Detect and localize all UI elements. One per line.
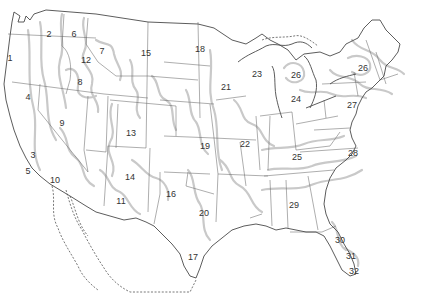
region-label-26-michigan: 26 <box>291 71 301 80</box>
region-label-31: 31 <box>346 252 356 261</box>
region-label-10: 10 <box>50 176 60 185</box>
region-label-32: 32 <box>349 267 359 276</box>
region-label-27: 27 <box>347 101 357 110</box>
region-label-13: 13 <box>126 129 136 138</box>
region-label-17: 17 <box>188 253 198 262</box>
region-label-14: 14 <box>125 173 135 182</box>
region-label-9: 9 <box>59 119 64 128</box>
region-label-6: 6 <box>71 30 76 39</box>
region-label-25: 25 <box>292 153 302 162</box>
region-label-3: 3 <box>30 151 35 160</box>
us-region-map <box>0 0 426 299</box>
region-label-4: 4 <box>25 93 30 102</box>
region-label-16: 16 <box>166 190 176 199</box>
region-label-2: 2 <box>46 30 51 39</box>
region-label-8: 8 <box>77 78 82 87</box>
region-label-7: 7 <box>99 47 104 56</box>
region-label-22: 22 <box>240 140 250 149</box>
region-label-30: 30 <box>335 236 345 245</box>
region-label-28: 28 <box>348 149 358 158</box>
region-label-21: 21 <box>221 83 231 92</box>
region-label-11: 11 <box>116 197 125 206</box>
region-label-23: 23 <box>252 70 262 79</box>
region-label-18: 18 <box>195 45 205 54</box>
region-label-19: 19 <box>200 142 210 151</box>
region-label-26-northeast: 26 <box>358 64 368 73</box>
region-label-20: 20 <box>199 209 209 218</box>
region-label-24: 24 <box>291 95 301 104</box>
region-label-12: 12 <box>81 56 91 65</box>
region-boundaries <box>28 14 404 266</box>
region-label-29: 29 <box>289 201 299 210</box>
region-label-1: 1 <box>7 54 12 63</box>
region-label-15: 15 <box>141 49 151 58</box>
region-label-5: 5 <box>25 167 30 176</box>
